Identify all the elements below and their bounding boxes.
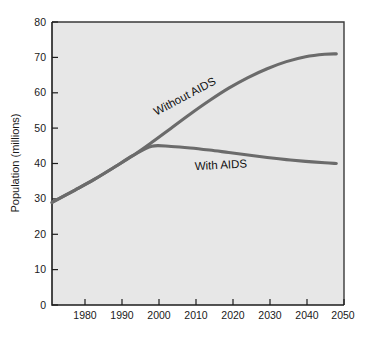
y-tick-label-70: 70 bbox=[34, 51, 46, 63]
x-tick-label-1990: 1990 bbox=[110, 309, 134, 321]
y-tick-label-40: 40 bbox=[34, 157, 46, 169]
x-tick-label-2020: 2020 bbox=[221, 309, 245, 321]
y-axis-tick-labels: 0 10 20 30 40 50 60 70 80 bbox=[34, 16, 46, 311]
y-tick-label-0: 0 bbox=[40, 299, 46, 311]
y-tick-label-80: 80 bbox=[34, 16, 46, 28]
chart-container: 0 10 20 30 40 50 60 70 80 1980 1990 2000… bbox=[0, 0, 367, 339]
y-tick-label-10: 10 bbox=[34, 263, 46, 275]
y-tick-label-60: 60 bbox=[34, 86, 46, 98]
y-axis-title: Population (millions) bbox=[9, 113, 21, 212]
y-tick-label-20: 20 bbox=[34, 228, 46, 240]
x-tick-label-1980: 1980 bbox=[73, 309, 97, 321]
x-tick-label-2040: 2040 bbox=[295, 309, 319, 321]
population-projection-chart: 0 10 20 30 40 50 60 70 80 1980 1990 2000… bbox=[0, 0, 367, 339]
x-tick-label-2000: 2000 bbox=[147, 309, 171, 321]
x-tick-label-2030: 2030 bbox=[258, 309, 282, 321]
y-tick-label-50: 50 bbox=[34, 122, 46, 134]
x-tick-label-2010: 2010 bbox=[184, 309, 208, 321]
x-tick-label-2050: 2050 bbox=[331, 309, 355, 321]
y-tick-label-30: 30 bbox=[34, 192, 46, 204]
